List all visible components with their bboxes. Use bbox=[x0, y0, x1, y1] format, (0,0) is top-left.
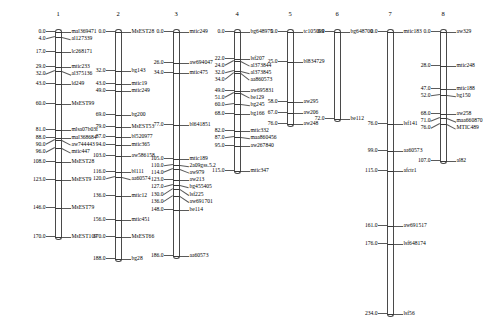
locus-marker-name: MsEST66 bbox=[132, 234, 155, 240]
locus-position: 22.0 bbox=[185, 56, 225, 62]
locus-tick bbox=[173, 165, 180, 166]
locus-leader-left bbox=[278, 112, 287, 113]
locus-position: 76.0 bbox=[238, 121, 278, 127]
locus-leader-left bbox=[225, 113, 234, 114]
locus-tick bbox=[55, 208, 62, 209]
locus-leader-left bbox=[431, 65, 440, 66]
locus-leader-left bbox=[163, 168, 172, 172]
locus-tick bbox=[387, 151, 394, 152]
locus-position: 90.0 bbox=[6, 142, 46, 148]
locus-marker-name: mtic332 bbox=[251, 128, 269, 134]
chromosome-bar bbox=[440, 32, 447, 161]
locus-leader-right bbox=[62, 162, 71, 163]
locus-position: 123.0 bbox=[6, 177, 46, 183]
locus-tick bbox=[115, 71, 122, 72]
locus-leader-left bbox=[378, 123, 387, 124]
linkage-group-title: 6 bbox=[327, 10, 347, 17]
locus-marker-name: aw329 bbox=[457, 29, 472, 35]
locus-tick bbox=[387, 226, 394, 227]
locus-tick bbox=[173, 159, 180, 160]
locus-leader-right bbox=[122, 137, 131, 138]
locus-tick bbox=[234, 71, 241, 72]
locus-position: 136.0 bbox=[66, 193, 106, 199]
locus-tick bbox=[115, 32, 122, 33]
locus-leader-left bbox=[378, 150, 387, 151]
locus-position: 115.0 bbox=[338, 168, 378, 174]
locus-position: 29.0 bbox=[6, 64, 46, 70]
locus-leader-right bbox=[294, 113, 303, 114]
locus-tick bbox=[234, 171, 241, 172]
locus-tick bbox=[115, 115, 122, 116]
locus-leader-right bbox=[447, 66, 456, 67]
locus-position: 0.0 bbox=[66, 29, 106, 35]
locus-tick bbox=[115, 145, 122, 146]
locus-leader-right bbox=[447, 114, 456, 115]
chromosome-bar bbox=[287, 32, 294, 124]
locus-position: 108.0 bbox=[6, 159, 46, 165]
locus-leader-left bbox=[378, 225, 387, 226]
locus-position: 0.0 bbox=[6, 29, 46, 35]
locus-leader-left bbox=[45, 70, 54, 75]
locus-leader-right bbox=[241, 146, 250, 147]
locus-leader-left bbox=[106, 31, 115, 32]
locus-tick bbox=[287, 62, 294, 63]
locus-tick bbox=[55, 130, 62, 131]
locus-leader-left bbox=[106, 144, 115, 145]
locus-marker-name: maa660870 bbox=[457, 118, 483, 124]
locus-tick bbox=[115, 84, 122, 85]
locus-tick bbox=[173, 256, 180, 257]
locus-leader-right bbox=[240, 73, 250, 81]
locus-tick bbox=[173, 73, 180, 74]
locus-leader-left bbox=[46, 83, 55, 84]
locus-position: 146.0 bbox=[6, 205, 46, 211]
locus-tick bbox=[55, 237, 62, 238]
locus-leader-right bbox=[180, 159, 189, 160]
locus-tick bbox=[55, 67, 62, 68]
locus-leader-right bbox=[180, 256, 189, 257]
locus-leader-left bbox=[224, 103, 233, 105]
locus-tick bbox=[440, 118, 447, 119]
locus-tick bbox=[173, 210, 180, 211]
locus-tick bbox=[115, 127, 122, 128]
locus-leader-right bbox=[447, 32, 456, 33]
locus-position: 87.0 bbox=[185, 135, 225, 141]
linkage-group-title: 1 bbox=[48, 10, 68, 17]
locus-leader-left bbox=[378, 313, 387, 314]
locus-leader-left bbox=[46, 129, 55, 130]
locus-leader-right bbox=[61, 37, 70, 40]
locus-position: 188.0 bbox=[66, 256, 106, 262]
locus-tick bbox=[440, 32, 447, 33]
chromosome-bar bbox=[387, 32, 394, 314]
locus-position: 34.0 bbox=[185, 77, 225, 83]
linkage-group-title: 8 bbox=[433, 10, 453, 17]
locus-position: 77.0 bbox=[124, 122, 164, 128]
locus-tick bbox=[387, 314, 394, 315]
locus-leader-left bbox=[45, 140, 54, 146]
locus-marker-name: aa60573 bbox=[190, 253, 209, 259]
locus-position: 4.0 bbox=[6, 36, 46, 42]
locus-marker-name: MsEST28 bbox=[72, 159, 95, 165]
locus-marker-name: mtic19 bbox=[132, 81, 148, 87]
locus-tick bbox=[115, 259, 122, 260]
locus-marker-name: mtic189 bbox=[190, 156, 208, 162]
locus-marker-name: bl520977 bbox=[132, 134, 153, 140]
locus-marker-name: mtic249 bbox=[132, 88, 150, 94]
locus-leader-left bbox=[224, 93, 233, 99]
locus-leader-left bbox=[278, 123, 287, 124]
locus-leader-left bbox=[46, 207, 55, 208]
locus-position: 47.0 bbox=[391, 86, 431, 92]
locus-leader-left bbox=[325, 118, 334, 119]
locus-leader-left bbox=[431, 88, 440, 89]
locus-position: 99.0 bbox=[338, 148, 378, 154]
locus-marker-name: bl641851 bbox=[190, 122, 211, 128]
locus-leader-left bbox=[325, 31, 334, 32]
linkage-group-title: 3 bbox=[166, 10, 186, 17]
locus-leader-left bbox=[45, 36, 54, 39]
locus-leader-right bbox=[62, 52, 71, 53]
locus-leader-left bbox=[106, 136, 115, 137]
locus-position: 114.0 bbox=[124, 170, 164, 176]
locus-leader-left bbox=[224, 136, 233, 138]
locus-marker-name: MsEST99 bbox=[72, 101, 95, 107]
locus-leader-right bbox=[122, 145, 131, 146]
locus-leader-right bbox=[179, 196, 189, 203]
